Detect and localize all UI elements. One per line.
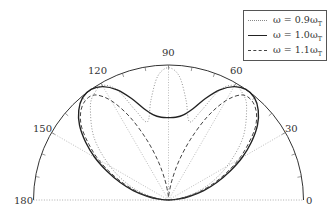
tick-mark [36, 177, 40, 178]
legend-item-1.0: ω = 1.0ωT [248, 28, 322, 43]
tick-mark [122, 73, 123, 77]
tick-label-120: 120 [88, 65, 107, 76]
tick-mark [292, 154, 296, 155]
tick-label-150: 150 [33, 123, 52, 134]
legend-label: ω = 0.9ωT [273, 14, 322, 28]
tick-mark [42, 154, 46, 155]
tick-label-60: 60 [230, 65, 243, 76]
tick-mark [269, 113, 272, 116]
legend-item-0.9: ω = 0.9ωT [248, 13, 322, 28]
tick-mark [213, 73, 214, 77]
grid-line-30 [169, 133, 286, 201]
tick-mark [297, 177, 301, 178]
tick-label-0: 0 [306, 195, 312, 206]
legend-label: ω = 1.1ωT [273, 44, 322, 58]
tick-label-90: 90 [162, 47, 175, 58]
tick-label-180: 180 [14, 195, 33, 206]
legend-label: ω = 1.0ωT [273, 29, 322, 43]
legend: ω = 0.9ωT ω = 1.0ωT ω = 1.1ωT [243, 10, 327, 61]
solid-line-swatch-icon [248, 35, 267, 36]
tick-mark [191, 67, 192, 71]
dashed-line-swatch-icon [248, 50, 267, 51]
dotted-line-swatch-icon [248, 20, 267, 21]
tick-mark [52, 133, 56, 135]
tick-label-30: 30 [285, 123, 298, 134]
tick-mark [145, 67, 146, 71]
tick-mark [65, 113, 68, 116]
radial-grid-lines [52, 65, 286, 200]
legend-item-1.1: ω = 1.1ωT [248, 43, 322, 58]
